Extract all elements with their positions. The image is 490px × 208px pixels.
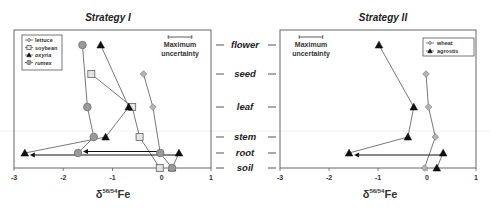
x-tick-label: -3 — [277, 174, 283, 181]
x-axis-label-strategy-2: δ56/54Fe — [363, 188, 398, 200]
series-line-soybean — [91, 74, 159, 168]
legend-strategy-2: wheat agrostis — [423, 38, 474, 56]
uncertainty-label-line-1: Maximum — [164, 41, 196, 48]
series-line-agrostis — [349, 45, 414, 153]
uncertainty-label-line-2: uncertainty — [161, 50, 199, 58]
data-point-lettuce-leaf — [150, 104, 157, 111]
legend-strategy-1: lettuce soybean oxyria rumex — [22, 35, 62, 70]
x-axis-label-strategy-1: δ56/54Fe — [96, 188, 131, 200]
uncertainty-error-bar — [168, 35, 192, 39]
x-tick-label: -1 — [375, 174, 381, 181]
data-point-soybean-soil — [156, 165, 163, 172]
legend-marker-rumex — [27, 60, 32, 65]
legend-label-soybean: soybean — [35, 45, 58, 51]
category-label-leaf: leaf — [237, 101, 254, 112]
data-point-rumex-flower — [79, 41, 87, 49]
category-label-root: root — [236, 147, 255, 158]
x-tick-label: 0 — [160, 174, 164, 181]
data-point-wheat-seed — [423, 71, 430, 78]
legend-label-rumex: rumex — [35, 60, 52, 66]
uncertainty-label-line-2: uncertainty — [292, 50, 330, 58]
uncertainty-label-line-1: Maximum — [295, 41, 327, 48]
data-point-wheat-leaf — [425, 104, 432, 111]
x-axis-label-element: Fe — [117, 188, 130, 200]
x-tick-label: -2 — [326, 174, 332, 181]
data-point-rumex-root — [156, 149, 164, 157]
figure: Strategy I Strategy II flower seed leaf … — [0, 0, 490, 208]
max-uncertainty-annotation-strategy-1: Maximum uncertainty — [161, 35, 199, 58]
data-point-rumex-root — [74, 149, 82, 157]
data-point-agrostis-flower — [375, 41, 383, 48]
data-point-agrostis-root — [439, 149, 447, 156]
chart-title-strategy-1: Strategy I — [85, 12, 131, 23]
category-label-flower: flower — [231, 39, 260, 50]
legend-marker-soybean — [27, 45, 31, 49]
x-tick-label: -2 — [60, 174, 66, 181]
series-line-lettuce — [144, 74, 161, 153]
x-axis-label-superscript: 56/54 — [102, 188, 118, 194]
series-line-wheat — [425, 74, 436, 168]
x-tick-label: 1 — [209, 174, 213, 181]
legend-label-lettuce: lettuce — [35, 37, 53, 43]
data-point-wheat-stem — [432, 134, 439, 141]
data-point-rumex-leaf — [84, 103, 92, 111]
data-point-lettuce-seed — [140, 71, 147, 78]
legend-label-oxyria: oxyria — [35, 52, 51, 58]
category-label-soil: soil — [237, 162, 254, 173]
series-points — [345, 41, 447, 171]
x-tick-label: 1 — [474, 174, 478, 181]
legend-label-wheat: wheat — [436, 40, 453, 46]
x-tick-label: 0 — [425, 174, 429, 181]
data-point-oxyria-flower — [97, 41, 105, 48]
data-point-agrostis-stem — [404, 133, 412, 140]
x-axis-label-superscript: 56/54 — [369, 188, 385, 194]
data-point-rumex-soil — [168, 164, 176, 172]
arrow-head-rumex — [83, 149, 88, 154]
x-tick-label: -3 — [11, 174, 17, 181]
data-point-agrostis-leaf — [410, 103, 418, 110]
x-axis-strategy-2: -3 -2 -1 0 1 δ56/54Fe — [277, 174, 478, 200]
category-label-seed: seed — [234, 68, 256, 79]
arrow-head-agrostis — [354, 153, 359, 158]
uncertainty-error-bar — [299, 35, 323, 39]
data-point-soybean-stem — [136, 134, 143, 141]
data-point-rumex-stem — [90, 133, 98, 141]
x-axis-strategy-1: -3 -2 -1 0 1 δ56/54Fe — [11, 174, 213, 200]
chart-title-strategy-2: Strategy II — [359, 12, 408, 23]
data-marks-strategy-2 — [280, 41, 476, 171]
data-point-oxyria-stem — [102, 133, 110, 140]
x-tick-label: -1 — [109, 174, 115, 181]
legend-label-agrostis: agrostis — [437, 48, 458, 54]
max-uncertainty-annotation-strategy-2: Maximum uncertainty — [292, 35, 330, 58]
category-label-stem: stem — [234, 131, 257, 142]
data-point-oxyria-root — [175, 149, 183, 156]
category-axis: flower seed leaf stem root soil — [216, 39, 276, 173]
arrow-head-oxyria — [30, 153, 35, 158]
data-point-soybean-seed — [88, 71, 95, 78]
x-axis-label-element: Fe — [384, 188, 397, 200]
